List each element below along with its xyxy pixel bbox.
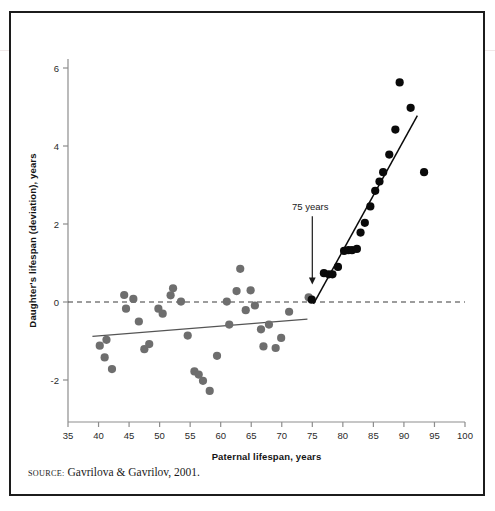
data-point bbox=[285, 308, 293, 316]
source-keyword: SOURCE: bbox=[28, 469, 65, 478]
data-point bbox=[277, 334, 285, 342]
data-point bbox=[199, 377, 207, 385]
data-point bbox=[129, 295, 137, 303]
data-point bbox=[385, 150, 393, 158]
data-point bbox=[177, 298, 185, 306]
x-axis-tick-label: 75 bbox=[307, 430, 318, 441]
x-axis-tick-label: 70 bbox=[276, 430, 287, 441]
data-point bbox=[184, 331, 192, 339]
x-axis-tick-label: 35 bbox=[63, 430, 74, 441]
figure-container: 6420-23540455055606570758085909510075 ye… bbox=[0, 0, 495, 511]
x-axis-tick-label: 90 bbox=[399, 430, 410, 441]
y-axis-tick-label: 6 bbox=[54, 63, 59, 74]
data-point bbox=[328, 270, 336, 278]
x-axis-tick-label: 55 bbox=[185, 430, 196, 441]
data-point bbox=[159, 310, 167, 318]
y-axis-tick-label: 2 bbox=[54, 219, 59, 230]
data-point bbox=[135, 317, 143, 325]
source-citation: Gavrilova & Gavrilov, 2001. bbox=[68, 466, 200, 478]
data-point bbox=[232, 287, 240, 295]
data-point bbox=[108, 365, 116, 373]
data-point bbox=[396, 78, 404, 86]
y-axis-tick-label: 0 bbox=[54, 297, 59, 308]
data-point bbox=[308, 296, 316, 304]
data-point bbox=[120, 291, 128, 299]
x-axis-tick-label: 50 bbox=[154, 430, 165, 441]
x-axis-tick-label: 65 bbox=[246, 430, 257, 441]
data-point bbox=[391, 126, 399, 134]
data-point bbox=[169, 284, 177, 292]
data-point bbox=[145, 340, 153, 348]
data-point bbox=[242, 306, 250, 314]
data-point bbox=[272, 344, 280, 352]
annotation-arrow-head bbox=[309, 277, 316, 284]
data-point bbox=[334, 263, 342, 271]
scatter-chart: 6420-23540455055606570758085909510075 ye… bbox=[0, 0, 495, 511]
data-point bbox=[366, 202, 374, 210]
data-point bbox=[361, 219, 369, 227]
y-axis-title: Daughter's lifespan (deviation), years bbox=[27, 153, 38, 327]
data-point bbox=[101, 353, 109, 361]
data-point bbox=[375, 177, 383, 185]
data-point bbox=[356, 228, 364, 236]
x-axis-tick-label: 80 bbox=[338, 430, 349, 441]
data-point bbox=[225, 321, 233, 329]
data-point bbox=[122, 305, 130, 313]
y-axis-tick-label: 4 bbox=[54, 141, 59, 152]
x-axis-tick-label: 60 bbox=[215, 430, 226, 441]
data-point bbox=[353, 245, 361, 253]
data-point bbox=[236, 265, 244, 273]
series-1 bbox=[308, 78, 429, 303]
data-point bbox=[247, 286, 255, 294]
data-point bbox=[96, 342, 104, 350]
x-axis-tick-label: 40 bbox=[93, 430, 104, 441]
data-point bbox=[407, 104, 415, 112]
data-point bbox=[223, 298, 231, 306]
data-point bbox=[371, 187, 379, 195]
data-point bbox=[257, 325, 265, 333]
data-point bbox=[379, 168, 387, 176]
annotation-label: 75 years bbox=[292, 201, 329, 212]
x-axis-tick-label: 85 bbox=[368, 430, 379, 441]
x-axis-tick-label: 100 bbox=[457, 430, 473, 441]
x-axis-tick-label: 45 bbox=[124, 430, 135, 441]
data-point bbox=[167, 291, 175, 299]
data-point bbox=[206, 387, 214, 395]
data-point bbox=[265, 321, 273, 329]
y-axis-tick-label: -2 bbox=[51, 375, 59, 386]
trend-line-lower-segment-fit bbox=[92, 319, 307, 336]
data-point bbox=[213, 352, 221, 360]
data-point bbox=[251, 301, 259, 309]
source-note: SOURCE: Gavrilova & Gavrilov, 2001. bbox=[28, 466, 200, 478]
series-0 bbox=[96, 265, 313, 395]
data-point bbox=[102, 336, 110, 344]
x-axis-title: Paternal lifespan, years bbox=[212, 451, 322, 462]
x-axis-tick-label: 95 bbox=[429, 430, 440, 441]
data-point bbox=[420, 168, 428, 176]
data-point bbox=[259, 342, 267, 350]
